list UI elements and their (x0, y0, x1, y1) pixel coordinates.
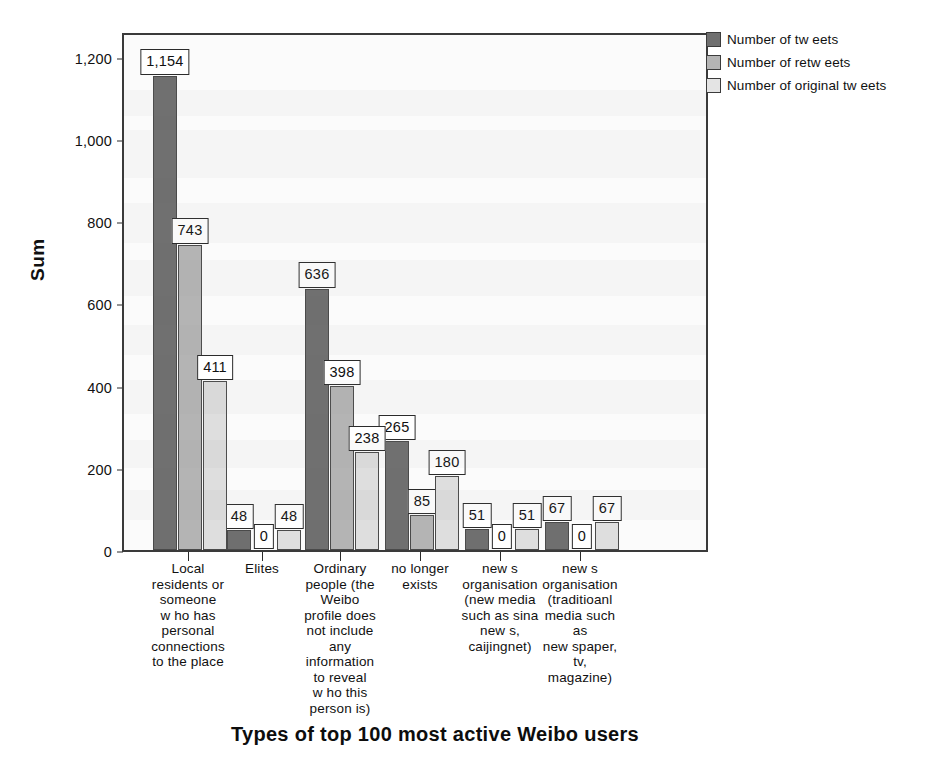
x-axis-category-line: people (the (294, 577, 386, 593)
bar-value-label: 0 (492, 524, 512, 550)
x-axis-category-line: Local (142, 561, 234, 577)
x-axis-category-line: tv, (532, 654, 628, 670)
bar-value-label: 51 (513, 503, 542, 529)
x-axis-tick-mark (262, 552, 263, 561)
y-axis-title: Sum (27, 241, 49, 281)
bar-chart: Sum 02004006008001,0001,200 1,1544863626… (0, 0, 945, 763)
bar (435, 476, 459, 550)
bar-value-label: 85 (408, 489, 437, 515)
x-axis-category-line: connections (142, 639, 234, 655)
bar-value-label: 398 (324, 360, 361, 386)
x-axis-category-line: Elites (227, 561, 297, 577)
bar (203, 381, 227, 550)
bar (385, 441, 409, 550)
bar (515, 529, 539, 550)
x-axis-category-line: residents or (142, 577, 234, 593)
bar (465, 529, 489, 550)
x-axis-category-line: as (532, 623, 628, 639)
x-axis-tick-mark (580, 552, 581, 561)
legend-item[interactable]: Number of original tw eets (706, 74, 941, 96)
bar-value-label: 0 (572, 524, 592, 550)
legend-swatch-icon (706, 55, 721, 70)
bar (277, 530, 301, 550)
x-axis-category-line: w ho has (142, 608, 234, 624)
bar-value-label: 48 (225, 504, 254, 530)
x-axis-category-labels: Localresidents orsomeonew ho haspersonal… (122, 561, 708, 711)
bar-value-label: 67 (593, 496, 622, 522)
x-axis-category-line: someone (142, 592, 234, 608)
x-axis-tick-mark (188, 552, 189, 561)
y-axis-tick-800: 800 (87, 215, 112, 231)
bar-value-label: 180 (429, 450, 466, 476)
y-axis-tick-0: 0 (104, 544, 112, 560)
bar-value-label: 0 (254, 524, 274, 550)
bar-value-label: 51 (463, 503, 492, 529)
y-axis-tick-1000: 1,000 (75, 133, 112, 149)
bar-value-label: 67 (543, 496, 572, 522)
bar-value-label: 636 (299, 262, 336, 288)
x-axis-category-line: information (294, 654, 386, 670)
y-axis-tick-1200: 1,200 (75, 51, 112, 67)
legend-item[interactable]: Number of tw eets (706, 28, 941, 50)
x-axis-category-line: (traditioanl (532, 592, 628, 608)
bar (410, 515, 434, 550)
bar (355, 452, 379, 550)
x-axis-category-line: Ordinary (294, 561, 386, 577)
legend-label: Number of tw eets (727, 32, 838, 47)
x-axis-category-line: person is) (294, 701, 386, 717)
x-axis-category-line: no longer (378, 561, 462, 577)
x-axis-category-line: profile does (294, 608, 386, 624)
chart-legend: Number of tw eetsNumber of retw eetsNumb… (706, 28, 941, 97)
bar (305, 289, 329, 550)
x-axis-category-line: organisation (532, 577, 628, 593)
x-axis-category-line: to the place (142, 654, 234, 670)
y-axis-tick-400: 400 (87, 380, 112, 396)
x-axis-category-line: personal (142, 623, 234, 639)
x-axis-category-line: not include (294, 623, 386, 639)
bar (227, 530, 251, 550)
bars-layer: 1,15448636265516774303988500411482381805… (124, 35, 706, 550)
bar (330, 386, 354, 550)
x-axis-category-line: any (294, 639, 386, 655)
y-axis-tick-labels: 02004006008001,0001,200 (56, 33, 118, 553)
x-axis-category-line: to reveal (294, 670, 386, 686)
x-axis-tick-mark (500, 552, 501, 561)
bar-value-label: 1,154 (140, 49, 189, 75)
bar (153, 76, 177, 550)
x-axis-tick-mark (340, 552, 341, 561)
x-axis-category-label: new sorganisation(traditioanlmedia sucha… (532, 561, 628, 685)
legend-label: Number of original tw eets (727, 78, 886, 93)
x-axis-category-label: Localresidents orsomeonew ho haspersonal… (142, 561, 234, 670)
x-axis-tick-mark (420, 552, 421, 561)
legend-swatch-icon (706, 32, 721, 47)
y-axis-tick-600: 600 (87, 297, 112, 313)
x-axis-category-label: Ordinarypeople (theWeiboprofile doesnot … (294, 561, 386, 716)
x-axis-category-line: new s (532, 561, 628, 577)
bar-value-label: 238 (349, 426, 386, 452)
plot-area: 1,15448636265516774303988500411482381805… (122, 33, 708, 552)
legend-item[interactable]: Number of retw eets (706, 51, 941, 73)
x-axis-category-label: no longerexists (378, 561, 462, 592)
bar (545, 522, 569, 550)
legend-label: Number of retw eets (727, 55, 850, 70)
x-axis-category-label: Elites (227, 561, 297, 577)
y-axis-tick-200: 200 (87, 462, 112, 478)
bar-value-label: 48 (275, 504, 304, 530)
bar-value-label: 411 (197, 355, 233, 381)
x-axis-category-line: magazine) (532, 670, 628, 686)
x-axis-category-line: exists (378, 577, 462, 593)
x-axis-category-line: media such (532, 608, 628, 624)
bar (178, 245, 202, 550)
x-axis-category-line: new spaper, (532, 639, 628, 655)
legend-swatch-icon (706, 78, 721, 93)
x-axis-category-line: Weibo (294, 592, 386, 608)
bar-value-label: 743 (172, 218, 209, 244)
x-axis-title: Types of top 100 most active Weibo users (0, 723, 870, 746)
x-axis-category-line: w ho this (294, 685, 386, 701)
bar (595, 522, 619, 550)
